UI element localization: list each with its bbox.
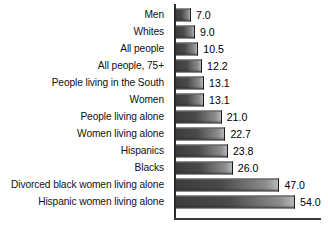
category-label: Hispanics: [0, 145, 169, 157]
bar-value-label: 26.0: [238, 162, 259, 174]
category-label: Women: [0, 94, 169, 106]
bar-value-label: 13.1: [209, 77, 230, 89]
category-label: People living in the South: [0, 77, 169, 89]
bar-value-label: 12.2: [207, 60, 228, 72]
bar-row: Women 13.1: [0, 91, 328, 108]
bar-value-label: 13.1: [209, 94, 230, 106]
bar: [175, 127, 225, 140]
bar-value-label: 47.0: [284, 179, 305, 191]
category-axis-line: [174, 4, 176, 218]
bar: [175, 25, 195, 38]
bar: [175, 178, 279, 191]
bar: [175, 110, 222, 123]
category-label: All people, 75+: [0, 60, 169, 72]
bar-row: Hispanics 23.8: [0, 142, 328, 159]
bar-row: All people, 75+ 12.2: [0, 57, 328, 74]
category-label: People living alone: [0, 111, 169, 123]
bar: [175, 59, 202, 72]
bar: [175, 42, 198, 55]
chart-rows: Men 7.0 Whites 9.0 All people 10.5 All p…: [0, 6, 328, 210]
bar-row: People living alone 21.0: [0, 108, 328, 125]
bar-chart: Men 7.0 Whites 9.0 All people 10.5 All p…: [0, 0, 328, 232]
bar-area: 22.7: [175, 127, 251, 140]
category-label: Divorced black women living alone: [0, 179, 169, 191]
bar-row: Whites 9.0: [0, 23, 328, 40]
bar-area: 9.0: [175, 25, 215, 38]
bar-row: Blacks 26.0: [0, 159, 328, 176]
bar-row: Women living alone 22.7: [0, 125, 328, 142]
category-label: Whites: [0, 26, 169, 38]
bar-value-label: 7.0: [196, 9, 211, 21]
bar: [175, 195, 295, 208]
bar-value-label: 9.0: [200, 26, 215, 38]
category-label: Men: [0, 9, 169, 21]
bar-row: Divorced black women living alone 47.0: [0, 176, 328, 193]
bar: [175, 161, 233, 174]
bar-area: 21.0: [175, 110, 247, 123]
bar-area: 10.5: [175, 42, 224, 55]
bar-area: 47.0: [175, 178, 305, 191]
bar-row: Men 7.0: [0, 6, 328, 23]
category-label: Women living alone: [0, 128, 169, 140]
bar-area: 13.1: [175, 93, 230, 106]
bar: [175, 8, 191, 21]
category-label: All people: [0, 43, 169, 55]
bar-value-label: 21.0: [227, 111, 248, 123]
bar-value-label: 54.0: [300, 196, 321, 208]
bar-row: People living in the South 13.1: [0, 74, 328, 91]
bar-area: 23.8: [175, 144, 254, 157]
category-label: Hispanic women living alone: [0, 196, 169, 208]
bar-value-label: 22.7: [230, 128, 251, 140]
bar-row: All people 10.5: [0, 40, 328, 57]
bar-area: 7.0: [175, 8, 211, 21]
bar: [175, 76, 204, 89]
category-label: Blacks: [0, 162, 169, 174]
bar-row: Hispanic women living alone 54.0: [0, 193, 328, 210]
value-axis-baseline: [174, 218, 321, 220]
bar: [175, 144, 228, 157]
bar-area: 13.1: [175, 76, 230, 89]
bar-area: 54.0: [175, 195, 321, 208]
bar-area: 26.0: [175, 161, 258, 174]
bar-value-label: 23.8: [233, 145, 254, 157]
bar: [175, 93, 204, 106]
bar-area: 12.2: [175, 59, 228, 72]
bar-value-label: 10.5: [203, 43, 224, 55]
